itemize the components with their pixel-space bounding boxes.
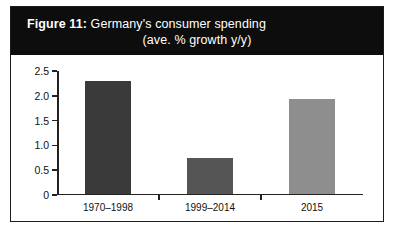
figure-title-line-1: Figure 11: Germany's consumer spending bbox=[21, 16, 266, 32]
x-axis-line bbox=[57, 194, 363, 196]
figure-number-label: Figure 11: bbox=[27, 17, 87, 31]
x-tick-label: 2015 bbox=[301, 202, 323, 213]
bar bbox=[85, 81, 131, 194]
y-tick-mark bbox=[52, 120, 57, 122]
chart-axes: 00.51.01.52.02.5 1970–19981999–20142015 bbox=[57, 71, 363, 195]
x-tick-label: 1999–2014 bbox=[185, 202, 235, 213]
y-tick-label: 0 bbox=[43, 189, 49, 201]
figure-subtitle: (ave. % growth y/y) bbox=[143, 32, 252, 48]
y-tick-mark bbox=[52, 145, 57, 147]
x-tick-label: 1970–1998 bbox=[83, 202, 133, 213]
figure-title-text: Germany's consumer spending bbox=[87, 17, 266, 31]
y-tick-mark bbox=[52, 194, 57, 196]
y-tick-mark bbox=[52, 95, 57, 97]
y-tick-mark bbox=[52, 169, 57, 171]
bar bbox=[187, 158, 233, 194]
figure-title-band: Figure 11: Germany's consumer spending (… bbox=[11, 7, 383, 55]
chart-plot-area: 00.51.01.52.02.5 1970–19981999–20142015 bbox=[11, 55, 383, 221]
y-tick-label: 1.5 bbox=[34, 115, 49, 127]
y-tick-label: 0.5 bbox=[34, 164, 49, 176]
y-tick-label: 1.0 bbox=[34, 139, 49, 151]
y-tick-mark bbox=[52, 70, 57, 72]
y-tick-label: 2.5 bbox=[34, 65, 49, 77]
x-tick-mark bbox=[158, 195, 160, 200]
y-axis-line bbox=[57, 71, 59, 195]
y-tick-label: 2.0 bbox=[34, 90, 49, 102]
bar bbox=[289, 99, 335, 193]
x-tick-mark bbox=[260, 195, 262, 200]
figure-container: Figure 11: Germany's consumer spending (… bbox=[10, 6, 384, 222]
